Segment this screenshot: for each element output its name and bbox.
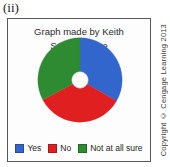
chart-title: Graph made by Keith [8, 26, 150, 37]
legend-swatch-not-at-all-sure [78, 144, 87, 153]
copyright-text: Copyright © Cengage Learning 2013 [159, 24, 168, 156]
legend-item-not-at-all-sure: Not at all sure [78, 144, 142, 153]
legend-label-not-at-all-sure: Not at all sure [90, 144, 142, 153]
legend-item-no: No [48, 144, 71, 153]
legend-item-yes: Yes [15, 144, 41, 153]
chart-legend: Yes No Not at all sure [8, 144, 150, 153]
pie-chart-svg [37, 37, 123, 123]
figure-label: (ii) [3, 0, 19, 16]
copyright-notice: Copyright © Cengage Learning 2013 [156, 18, 170, 162]
legend-label-no: No [60, 144, 71, 153]
pie-chart [37, 37, 123, 123]
legend-label-yes: Yes [27, 144, 41, 153]
donut-hole [72, 72, 88, 88]
chart-panel: Graph made by Keith Some college Yes No … [7, 18, 151, 162]
legend-swatch-yes [15, 144, 24, 153]
legend-swatch-no [48, 144, 57, 153]
